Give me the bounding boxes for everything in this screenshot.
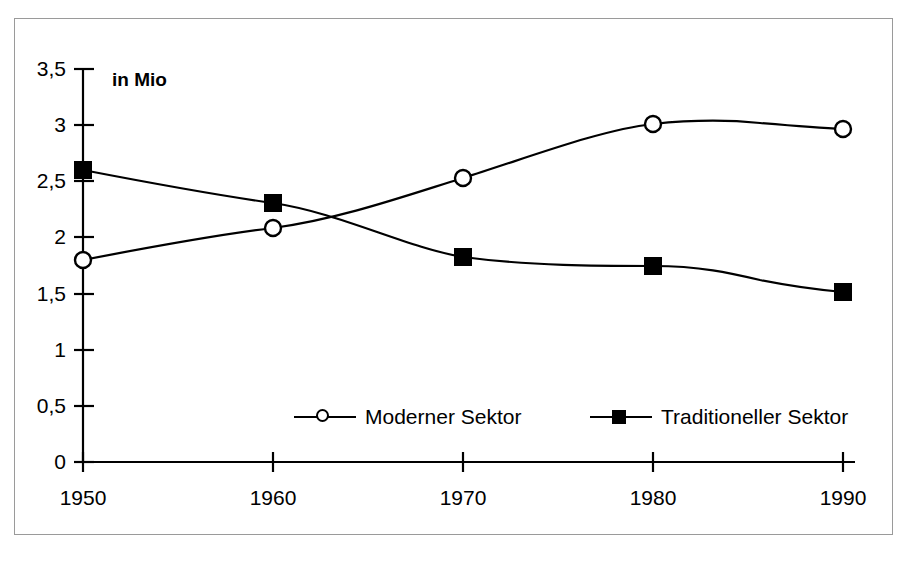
x-tick-label-1950: 1950 (38, 486, 128, 510)
unit-label: in Mio (112, 69, 167, 91)
legend-item-traditioneller-sektor[interactable]: Traditioneller Sektor (590, 405, 848, 429)
y-tick-label-3-5: 3,5 (4, 57, 66, 81)
y-tick-label-1: 1 (4, 338, 66, 362)
y-tick-label-2-5: 2,5 (4, 169, 66, 193)
legend-item-moderner-sektor[interactable]: Moderner Sektor (294, 405, 521, 429)
legend-label-traditioneller-sektor: Traditioneller Sektor (661, 405, 848, 429)
y-tick-label-0-5: 0,5 (4, 394, 66, 418)
legend-marker-filled-square-icon (590, 407, 652, 427)
x-tick-label-1970: 1970 (418, 486, 508, 510)
x-tick-label-1960: 1960 (228, 486, 318, 510)
x-tick-label-1990: 1990 (798, 486, 888, 510)
x-tick-label-1980: 1980 (608, 486, 698, 510)
legend-label-moderner-sektor: Moderner Sektor (365, 405, 521, 429)
y-tick-label-0: 0 (4, 450, 66, 474)
y-tick-label-2: 2 (4, 225, 66, 249)
legend-marker-open-circle-icon (294, 407, 356, 427)
chart-frame (14, 18, 893, 535)
chart-screenshot: in Mio 3,5 3 2,5 2 1,5 1 0,5 0 1950 1960… (0, 0, 909, 569)
y-tick-label-3: 3 (4, 113, 66, 137)
y-tick-label-1-5: 1,5 (4, 282, 66, 306)
